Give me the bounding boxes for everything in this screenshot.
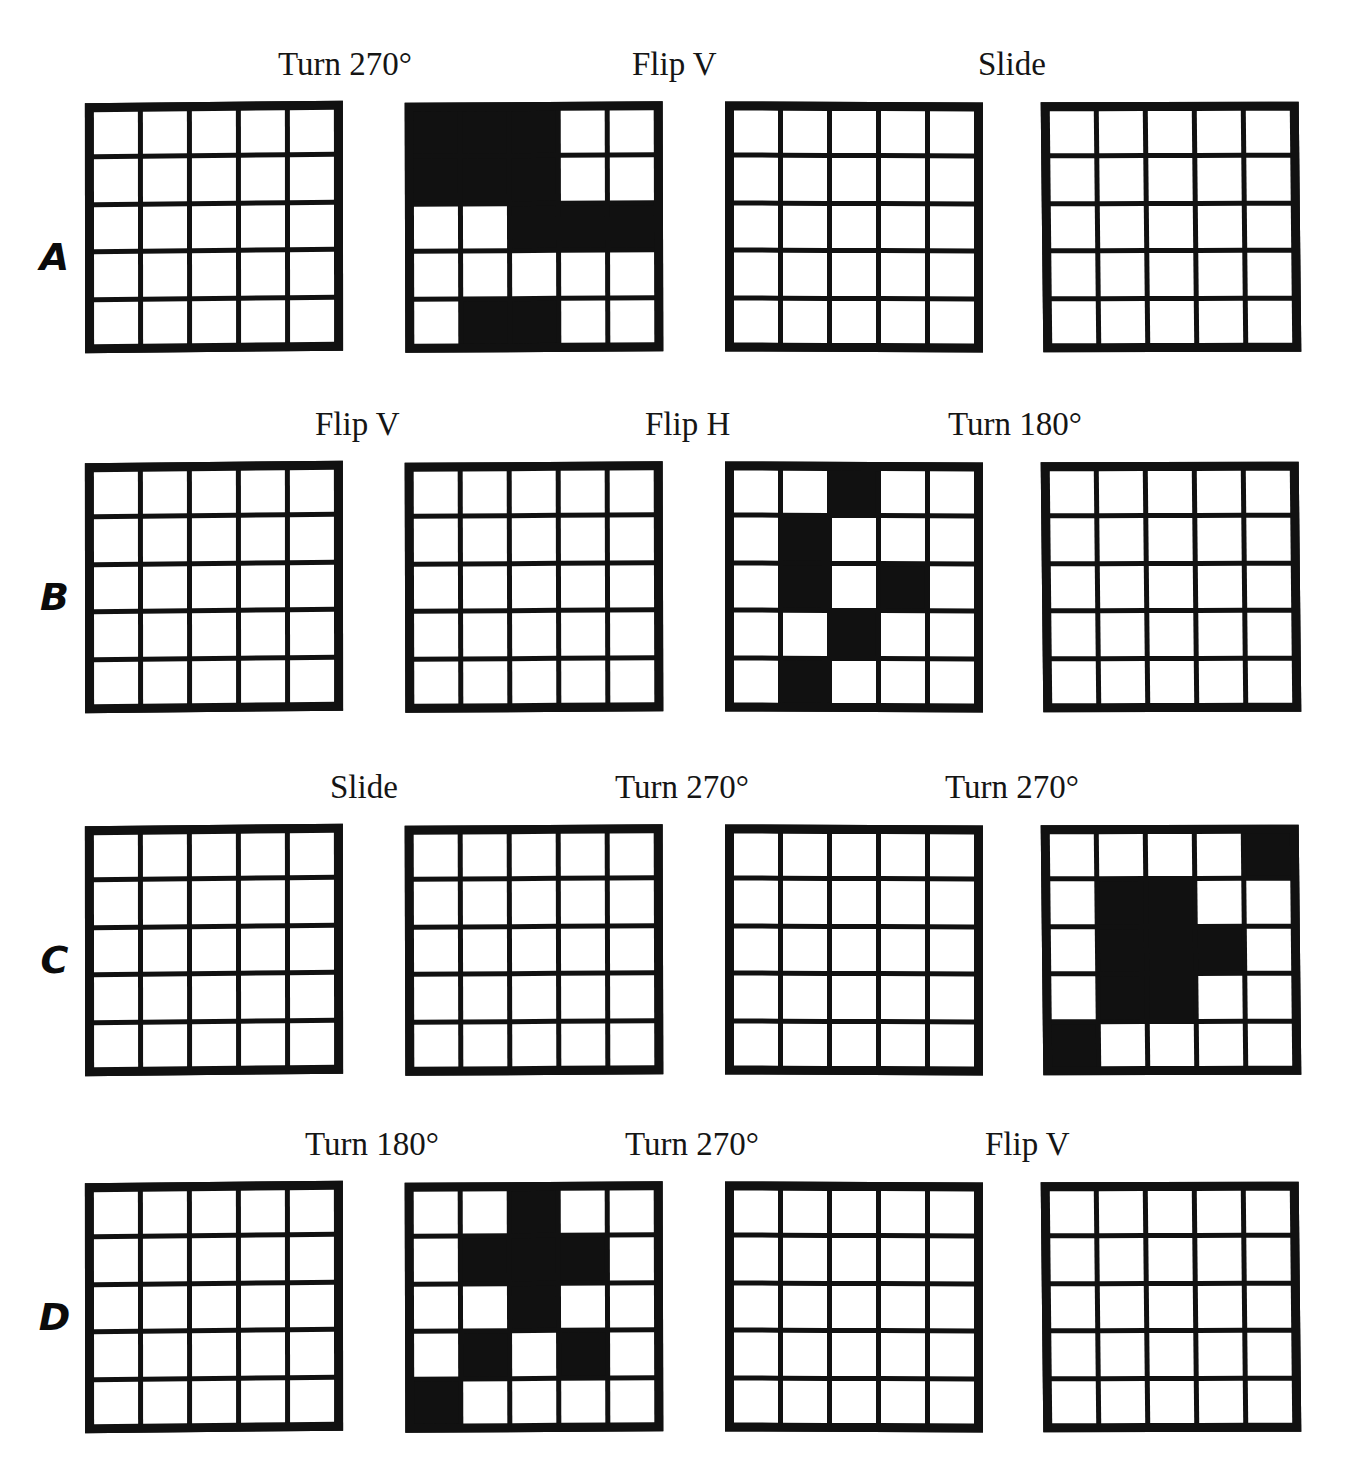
grid-b1[interactable] [85,461,343,713]
grid-cell[interactable] [881,206,925,249]
grid-cell[interactable] [881,471,925,514]
grid-cell[interactable] [1148,158,1192,201]
grid-cell[interactable] [610,1190,654,1233]
grid-d4[interactable] [1041,1182,1302,1433]
grid-cell[interactable] [1246,471,1290,514]
grid-cell[interactable] [1099,518,1143,561]
grid-cell[interactable] [561,1333,605,1376]
grid-cell[interactable] [561,1191,605,1234]
grid-cell[interactable] [94,882,138,925]
grid-cell[interactable] [610,881,654,924]
grid-cell[interactable] [414,1239,458,1282]
grid-cell[interactable] [1148,1238,1192,1281]
grid-cell[interactable] [512,566,556,609]
grid-cell[interactable] [512,206,556,249]
grid-cell[interactable] [930,929,974,972]
grid-cell[interactable] [1150,1381,1194,1424]
grid-cell[interactable] [1148,518,1192,561]
grid-cell[interactable] [1051,1286,1095,1329]
grid-cell[interactable] [143,471,187,514]
grid-cell[interactable] [1198,613,1242,656]
grid-cell[interactable] [783,471,827,514]
grid-cell[interactable] [832,111,876,154]
grid-cell[interactable] [414,206,458,249]
grid-cell[interactable] [192,1333,236,1376]
grid-cell[interactable] [561,881,605,924]
grid-cell[interactable] [463,1381,507,1424]
grid-cell[interactable] [930,1024,974,1067]
grid-cell[interactable] [1247,205,1291,248]
grid-cell[interactable] [414,566,458,609]
grid-cell[interactable] [192,1238,236,1281]
grid-cell[interactable] [414,977,458,1020]
grid-cell[interactable] [1149,566,1193,609]
grid-cell[interactable] [192,253,236,296]
grid-cell[interactable] [241,158,285,201]
grid-cell[interactable] [192,300,236,343]
grid-cell[interactable] [241,928,285,971]
grid-cell[interactable] [1050,1191,1094,1234]
grid-cell[interactable] [832,613,876,656]
grid-cell[interactable] [561,1380,605,1423]
grid-cell[interactable] [94,112,138,155]
grid-cell[interactable] [1248,300,1292,343]
grid-cell[interactable] [192,518,236,561]
grid-cell[interactable] [94,519,138,562]
grid-cell[interactable] [561,834,605,877]
grid-cell[interactable] [881,1381,925,1424]
grid-cell[interactable] [1247,1285,1291,1328]
grid-cell[interactable] [241,470,285,513]
grid-cell[interactable] [610,1238,654,1281]
grid-cell[interactable] [241,253,285,296]
grid-cell[interactable] [1100,206,1144,249]
grid-cell[interactable] [143,519,187,562]
grid-cell[interactable] [610,612,654,655]
grid-cell[interactable] [561,518,605,561]
grid-cell[interactable] [512,660,556,703]
grid-cell[interactable] [143,206,187,249]
grid-cell[interactable] [610,928,654,971]
grid-b2[interactable] [405,461,664,713]
grid-cell[interactable] [610,252,654,295]
grid-cell[interactable] [290,1379,334,1422]
grid-cell[interactable] [143,1286,187,1329]
grid-cell[interactable] [192,613,236,656]
grid-cell[interactable] [143,253,187,296]
grid-cell[interactable] [1148,471,1192,514]
grid-cell[interactable] [610,300,654,343]
grid-cell[interactable] [1197,471,1241,514]
grid-cell[interactable] [414,519,458,562]
grid-cell[interactable] [881,1239,925,1282]
grid-cell[interactable] [832,1191,876,1234]
grid-cell[interactable] [1197,834,1241,877]
grid-cell[interactable] [734,253,778,296]
grid-cell[interactable] [561,471,605,514]
grid-cell[interactable] [610,1285,654,1328]
grid-cell[interactable] [610,110,654,153]
grid-cell[interactable] [734,1380,778,1423]
grid-cell[interactable] [1050,471,1094,514]
grid-cell[interactable] [881,613,925,656]
grid-cell[interactable] [1149,253,1193,296]
grid-cell[interactable] [512,300,556,343]
grid-cell[interactable] [832,1286,876,1329]
grid-cell[interactable] [414,471,458,514]
grid-cell[interactable] [512,518,556,561]
grid-cell[interactable] [1099,158,1143,201]
grid-cell[interactable] [930,159,974,202]
grid-cell[interactable] [734,928,778,971]
grid-cell[interactable] [463,159,507,202]
grid-cell[interactable] [881,929,925,972]
grid-cell[interactable] [414,614,458,657]
grid-cell[interactable] [414,111,458,154]
grid-cell[interactable] [930,254,974,297]
grid-cell[interactable] [832,1333,876,1376]
grid-cell[interactable] [290,1285,334,1328]
grid-cell[interactable] [881,111,925,154]
grid-cell[interactable] [414,661,458,704]
grid-cell[interactable] [290,157,334,200]
grid-cell[interactable] [1247,565,1291,608]
grid-cell[interactable] [1050,1239,1094,1282]
grid-cell[interactable] [512,1191,556,1234]
grid-cell[interactable] [94,207,138,250]
